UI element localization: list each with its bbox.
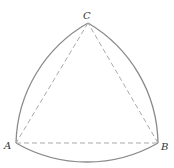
reuleaux-diagram: C A B (0, 0, 174, 168)
vertex-label-a: A (3, 140, 11, 151)
dashed-edge-bc (88, 23, 158, 143)
dashed-edge-ca (16, 23, 88, 143)
arc-ab (16, 143, 158, 162)
vertex-label-c: C (83, 10, 91, 21)
vertex-label-b: B (160, 141, 168, 152)
